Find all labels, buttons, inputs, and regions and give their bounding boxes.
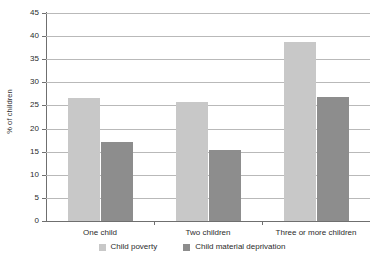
- legend-swatch: [99, 244, 106, 251]
- legend-label: Child material deprivation: [195, 243, 285, 251]
- plot-area: 051015202530354045 One childTwo children…: [46, 13, 370, 221]
- y-tick-label: 25: [30, 101, 39, 109]
- y-tick-label: 45: [30, 9, 39, 17]
- legend-label: Child poverty: [111, 243, 158, 251]
- y-tick-label: 10: [30, 171, 39, 179]
- bar: [176, 102, 208, 221]
- gridline: [46, 221, 370, 222]
- x-category-label: Two children: [186, 229, 231, 237]
- y-tick-label: 0: [35, 217, 39, 225]
- x-category-label: One child: [83, 229, 117, 237]
- y-tick-mark: [42, 221, 46, 222]
- y-tick-label: 5: [35, 194, 39, 202]
- bar: [284, 42, 316, 221]
- bar: [68, 98, 100, 221]
- x-tick-mark: [154, 221, 155, 225]
- y-tick-label: 15: [30, 148, 39, 156]
- bar: [317, 97, 349, 221]
- bar-chart: % of children 051015202530354045 One chi…: [0, 0, 384, 266]
- x-category-label: Three or more children: [276, 229, 357, 237]
- y-tick-label: 40: [30, 32, 39, 40]
- y-tick-label: 20: [30, 125, 39, 133]
- chart-legend: Child povertyChild material deprivation: [0, 243, 384, 251]
- y-tick-label: 35: [30, 55, 39, 63]
- x-tick-mark: [262, 221, 263, 225]
- legend-item: Child material deprivation: [183, 243, 285, 251]
- bar: [209, 150, 241, 221]
- y-axis-title-text: % of children: [5, 89, 14, 134]
- bar-series-group: [46, 13, 370, 221]
- bar: [101, 142, 133, 221]
- y-axis-title: % of children: [2, 0, 16, 222]
- legend-item: Child poverty: [99, 243, 158, 251]
- legend-swatch: [183, 244, 190, 251]
- y-tick-label: 30: [30, 78, 39, 86]
